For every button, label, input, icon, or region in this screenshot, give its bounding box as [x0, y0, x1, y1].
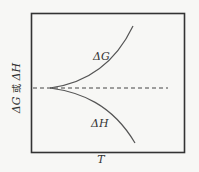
y-axis-label-or: 或: [12, 84, 22, 93]
y-axis-label-dg: ΔG: [10, 96, 23, 113]
delta-h-label: ΔH: [90, 117, 109, 130]
x-axis-label: T: [97, 153, 104, 166]
y-axis-label: ΔG 或 ΔH: [10, 63, 23, 113]
delta-g-label: ΔG: [92, 50, 110, 63]
delta-h-curve: [50, 88, 135, 143]
plot-frame: [32, 14, 185, 153]
chart: ΔG ΔH: [0, 0, 199, 172]
y-axis-label-dh: ΔH: [10, 63, 23, 81]
delta-g-curve: [50, 26, 133, 88]
